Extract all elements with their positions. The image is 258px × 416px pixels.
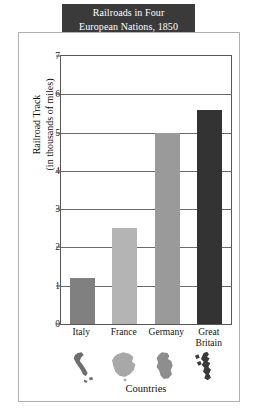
italy-map-icon: [64, 351, 98, 383]
france-map-icon: [107, 351, 141, 383]
y-axis-title-line-2: (in thousands of miles): [43, 45, 56, 205]
great-britain-map-icon: [192, 351, 226, 383]
x-axis-labels: ItalyFranceGermanyGreatBritain: [60, 327, 232, 353]
x-label-germany: Germany: [145, 327, 188, 338]
x-label-line-2: Britain: [188, 338, 231, 349]
x-label-line-1: Italy: [60, 327, 103, 338]
y-axis-title: Railroad Track (in thousands of miles): [31, 45, 56, 205]
bar-great-britain: [197, 110, 222, 324]
chart-title-line-1: Railroads in Four: [62, 6, 195, 20]
chart-title-banner: Railroads in Four European Nations, 1850: [62, 4, 195, 33]
y-axis-title-line-1: Railroad Track: [31, 45, 44, 205]
bar-germany: [155, 133, 180, 324]
x-label-line-1: France: [103, 327, 146, 338]
plot-area: [60, 55, 232, 325]
x-label-great-britain: GreatBritain: [188, 327, 231, 349]
country-map-row: [60, 351, 232, 383]
chart-title-line-2: European Nations, 1850: [62, 20, 195, 34]
x-label-line-1: Great: [188, 327, 231, 338]
x-axis-title: Countries: [60, 383, 232, 394]
x-label-italy: Italy: [60, 327, 103, 338]
x-label-line-1: Germany: [145, 327, 188, 338]
gridline-6: [61, 94, 231, 95]
germany-map-icon: [149, 351, 183, 383]
bar-france: [112, 228, 137, 324]
bar-italy: [70, 278, 95, 324]
x-label-france: France: [103, 327, 146, 338]
